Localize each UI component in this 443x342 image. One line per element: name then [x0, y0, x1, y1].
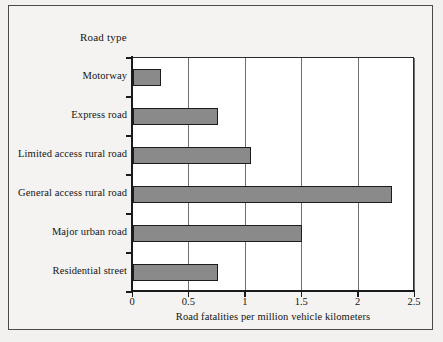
bar-general-access-rural-road: [133, 186, 392, 203]
gridline-1.5: [301, 58, 302, 290]
y-tick-label-express-road: Express road: [1, 109, 127, 120]
bar-limited-access-rural-road: [133, 147, 251, 164]
x-tick-label-0: 0: [129, 296, 134, 307]
bar-residential-street: [133, 264, 218, 281]
y-tick-mark: [126, 57, 132, 59]
gridline-2: [358, 58, 359, 290]
gridline-1: [245, 58, 246, 290]
chart-title: Road type: [80, 31, 127, 43]
x-axis-ticks: [0, 291, 443, 299]
chart-screenshot: Road type MotorwayExpress roadLimited ac…: [0, 0, 443, 342]
bar-express-road: [133, 108, 218, 125]
gridline-2.5: [414, 58, 415, 290]
x-tick-label-2.5: 2.5: [407, 296, 420, 307]
y-tick-label-motorway: Motorway: [1, 70, 127, 81]
bar-motorway: [133, 69, 161, 86]
x-tick-label-1.5: 1.5: [295, 296, 308, 307]
x-tick-label-2: 2: [355, 296, 360, 307]
y-tick-label-general-access-rural-road: General access rural road: [1, 187, 127, 198]
y-tick-label-limited-access-rural-road: Limited access rural road: [1, 148, 127, 159]
y-tick-mark: [126, 213, 132, 215]
y-tick-mark: [126, 252, 132, 254]
y-tick-mark: [126, 96, 132, 98]
x-tick-label-0.5: 0.5: [182, 296, 195, 307]
x-axis-title: Road fatalities per million vehicle kilo…: [132, 311, 414, 322]
plot-area: [132, 57, 414, 291]
gridline-0.5: [188, 58, 189, 290]
y-tick-mark: [126, 135, 132, 137]
y-tick-mark: [126, 174, 132, 176]
x-tick-label-1: 1: [242, 296, 247, 307]
y-tick-label-residential-street: Residential street: [1, 265, 127, 276]
y-axis-labels: MotorwayExpress roadLimited access rural…: [0, 57, 127, 291]
y-tick-label-major-urban-road: Major urban road: [1, 226, 127, 237]
bar-major-urban-road: [133, 225, 302, 242]
